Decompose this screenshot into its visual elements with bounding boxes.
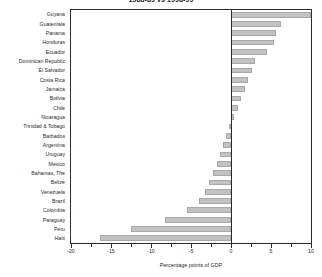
bar [165,217,231,223]
y-axis-tick-label: Venezuela [41,189,65,195]
bar [231,12,311,18]
x-axis-tick-label: -10 [147,248,155,254]
bar-row [71,96,311,102]
x-axis-tick-label: 10 [308,248,314,254]
bar-row [71,30,311,36]
bar-row [71,77,311,83]
y-axis-tick-label: Bolivia [50,95,65,101]
y-axis-tick-label: Jamaica [46,86,65,92]
x-axis-tick-label: -15 [107,248,115,254]
bar [231,96,241,102]
x-axis-minor-tick [291,244,292,247]
zero-line [231,10,232,243]
bar-row [71,49,311,55]
y-axis-tick-label: Haiti [55,235,65,241]
y-axis-tick-label: Panama [46,30,65,36]
bar [231,86,245,92]
y-axis-tick-label: Ecuador [46,49,65,55]
y-axis-tick-label: Honduras [43,39,66,45]
bar [223,142,231,148]
x-axis-tick-label: -5 [189,248,194,254]
bar [205,189,231,195]
bar-row [71,133,311,139]
y-axis-tick-label: Costa Rica [40,77,65,83]
x-axis-minor-tick [211,244,212,247]
x-axis-tick-label: -20 [67,248,75,254]
x-axis-minor-tick [171,244,172,247]
bar-row [71,124,311,130]
bar [100,235,231,241]
bar [199,198,231,204]
y-axis-labels: GuyanaGuatemalaPanamaHondurasEcuadorDomi… [0,9,68,244]
x-axis-tick-label: 0 [230,248,233,254]
bar [231,21,281,27]
bar [231,68,252,74]
bar-row [71,161,311,167]
bar-row [71,170,311,176]
x-axis-tick-label: 5 [270,248,273,254]
bar [231,58,255,64]
bar-row [71,58,311,64]
bar-row [71,105,311,111]
y-axis-tick-label: El Salvador [38,67,65,73]
y-axis-tick-label: Trinidad & Tobago [23,123,65,129]
y-axis-tick-label: Dominican Republic [19,58,65,64]
bar-row [71,198,311,204]
chart-root: 1988-89 vs 1998-99 GuyanaGuatemalaPanama… [0,0,322,277]
bar-row [71,114,311,120]
bar-row [71,21,311,27]
bar-row [71,207,311,213]
y-axis-tick-label: Bahamas, The [31,170,65,176]
bar [217,161,231,167]
y-axis-tick-label: Guatemala [40,21,65,27]
bar-row [71,68,311,74]
x-axis-minor-tick [131,244,132,247]
y-axis-tick-label: Chile [53,105,65,111]
bar-row [71,86,311,92]
bar-row [71,40,311,46]
bar [231,30,276,36]
bar-series [71,10,311,243]
bar-row [71,152,311,158]
y-axis-tick-label: Barbados [43,133,65,139]
bar-row [71,235,311,241]
y-axis-tick-label: Argentina [43,142,65,148]
y-axis-tick-label: Brazil [52,198,65,204]
bar [231,105,238,111]
bar [131,226,231,232]
bar [213,170,231,176]
y-axis-tick-label: Colombia [43,207,65,213]
x-axis-minor-tick [251,244,252,247]
bar [220,152,231,158]
bar [231,49,267,55]
y-axis-tick-label: Mexico [49,161,65,167]
x-axis-title: Percentage points of GDP [70,262,312,268]
y-axis-tick-label: Peru [54,226,65,232]
bar [231,40,274,46]
x-axis-minor-tick [91,244,92,247]
bar [187,207,231,213]
plot-area [70,9,312,244]
bar [209,180,231,186]
bar-row [71,180,311,186]
bar-row [71,226,311,232]
chart-title: 1988-89 vs 1998-99 [0,0,322,3]
bar-row [71,12,311,18]
y-axis-tick-label: Guyana [47,11,65,17]
bar-row [71,189,311,195]
bar-row [71,142,311,148]
bar [231,77,248,83]
y-axis-tick-label: Uruguay [45,151,65,157]
y-axis-tick-label: Nicaragua [41,114,65,120]
bar-row [71,217,311,223]
y-axis-tick-label: Belize [51,179,65,185]
y-axis-tick-label: Paraguay [43,217,65,223]
